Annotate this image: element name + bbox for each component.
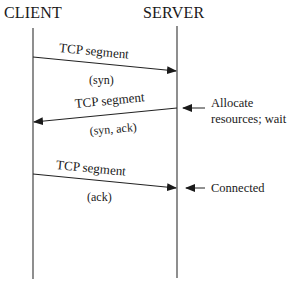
server-label: SERVER [143, 4, 204, 22]
connected-annotation: Connected [211, 180, 264, 196]
allocate-annotation: Allocate resources; wait [211, 95, 286, 127]
allocate-annotation-line1: Allocate [211, 95, 286, 111]
ack-message-sublabel: (ack) [87, 190, 112, 205]
syn-message-sublabel: (syn) [89, 73, 114, 88]
allocate-annotation-line2: resources; wait [211, 111, 286, 127]
client-label: CLIENT [4, 4, 62, 22]
sequence-diagram-canvas [0, 0, 298, 287]
syn-ack-arrow [34, 108, 177, 122]
